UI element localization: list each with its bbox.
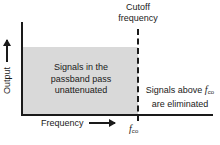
- passband-annotation-line-3: unattenuated: [30, 85, 132, 97]
- y-axis-label-group: Output: [0, 32, 14, 94]
- cutoff-caption-line-2: frequency: [103, 13, 173, 24]
- passband-annotation-line-1: Signals in the: [30, 62, 132, 74]
- stopband-annotation: Signals above fco are eliminated: [140, 84, 220, 110]
- x-axis-line: [21, 114, 213, 116]
- cutoff-frequency-dashed-line: [137, 29, 139, 121]
- passband-annotation-line-2: passband pass: [30, 74, 132, 86]
- arrow-up-icon: [6, 40, 8, 62]
- passband-annotation: Signals in the passband pass unattenuate…: [30, 62, 132, 97]
- x-axis-label: Frequency: [41, 118, 84, 128]
- arrow-right-icon: [89, 122, 115, 124]
- cutoff-tick-subscript: co: [132, 128, 139, 134]
- filter-response-figure: Cutoff frequency Output Frequency fco Si…: [0, 0, 220, 145]
- stopband-annotation-line-2: are eliminated: [140, 99, 220, 111]
- cutoff-caption-line-1: Cutoff: [103, 2, 173, 13]
- y-axis-label: Output: [2, 67, 12, 94]
- x-axis-label-group: Frequency: [41, 118, 115, 128]
- cutoff-tick-label: fco: [129, 123, 138, 134]
- stopband-subscript: co: [208, 89, 215, 95]
- stopband-annotation-prefix: Signals above: [146, 85, 205, 95]
- stopband-annotation-line-1: Signals above fco: [140, 84, 220, 99]
- cutoff-frequency-caption: Cutoff frequency: [103, 2, 173, 23]
- y-axis-line: [21, 22, 23, 116]
